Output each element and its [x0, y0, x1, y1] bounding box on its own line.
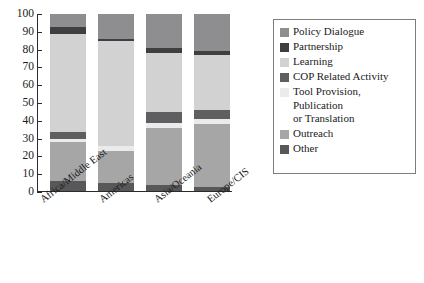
legend-item-label: Learning	[293, 55, 333, 69]
bar-segment[interactable]	[146, 112, 182, 123]
y-axis-tick-label: 90	[0, 26, 34, 38]
y-axis-tick-label: 30	[0, 133, 34, 145]
legend-item[interactable]: Policy Dialogue	[280, 25, 410, 39]
legend-item[interactable]: Other	[280, 142, 410, 156]
legend-item[interactable]: Tool Provision, Publication or Translati…	[280, 85, 410, 126]
bar-segment[interactable]	[146, 14, 182, 48]
bar-stack	[98, 14, 134, 192]
bar-segment[interactable]	[50, 132, 86, 139]
bar-column[interactable]	[98, 14, 134, 192]
legend-item-label: Outreach	[293, 127, 333, 141]
y-axis-tick-mark	[37, 67, 42, 68]
legend-item[interactable]: Learning	[280, 55, 410, 69]
y-axis-tick-mark	[37, 85, 42, 86]
legend-swatch-icon	[280, 88, 289, 97]
legend-swatch-icon	[280, 73, 289, 82]
legend-item-label: COP Related Activity	[293, 70, 389, 84]
legend-item[interactable]: Outreach	[280, 127, 410, 141]
legend-swatch-icon	[280, 58, 289, 67]
y-axis-tick-label: 0	[0, 186, 34, 198]
bar-column[interactable]	[146, 14, 182, 192]
legend-swatch-icon	[280, 130, 289, 139]
bar-segment[interactable]	[194, 110, 230, 119]
bar-segment[interactable]	[98, 14, 134, 39]
y-axis-tick-mark	[37, 50, 42, 51]
y-axis-tick-mark	[37, 139, 42, 140]
y-axis-tick-label: 40	[0, 115, 34, 127]
legend-item[interactable]: Partnership	[280, 40, 410, 54]
legend-swatch-icon	[280, 28, 289, 37]
legend-swatch-icon	[280, 145, 289, 154]
y-axis-tick-label: 100	[0, 8, 34, 20]
y-axis-tick-mark	[37, 156, 42, 157]
y-axis-tick-label: 10	[0, 168, 34, 180]
y-axis-tick-mark	[37, 14, 42, 15]
bar-segment[interactable]	[50, 34, 86, 132]
y-axis-tick-label: 60	[0, 79, 34, 91]
y-axis-tick-label: 70	[0, 62, 34, 74]
legend-item-label: Policy Dialogue	[293, 25, 364, 39]
chart-legend: Policy DialoguePartnershipLearningCOP Re…	[273, 19, 416, 174]
y-axis-tick-mark	[37, 121, 42, 122]
legend-swatch-icon	[280, 43, 289, 52]
legend-item-label: Partnership	[293, 40, 343, 54]
y-axis-tick-label: 80	[0, 44, 34, 56]
bar-segment[interactable]	[98, 41, 134, 146]
y-axis-tick-label: 50	[0, 97, 34, 109]
legend-item[interactable]: COP Related Activity	[280, 70, 410, 84]
stacked-bar-chart: 1009080706050403020100 Africa/Middle Eas…	[0, 0, 424, 283]
plot-area	[38, 14, 230, 192]
y-axis-tick-mark	[37, 192, 42, 193]
legend-item-label: Tool Provision, Publication or Translati…	[293, 85, 361, 126]
y-axis-tick-mark	[37, 174, 42, 175]
bar-segment[interactable]	[194, 55, 230, 110]
legend-item-label: Other	[293, 142, 318, 156]
bar-segment[interactable]	[146, 53, 182, 112]
y-axis-label-group: 1009080706050403020100	[0, 14, 34, 191]
bar-segment[interactable]	[194, 14, 230, 51]
bar-stack	[146, 14, 182, 192]
x-axis-line	[37, 191, 232, 192]
y-axis-tick-mark	[37, 103, 42, 104]
y-axis-tick-label: 20	[0, 151, 34, 163]
y-axis-tick-mark	[37, 32, 42, 33]
bar-segment[interactable]	[50, 14, 86, 26]
bar-segment[interactable]	[194, 124, 230, 186]
bar-segment[interactable]	[50, 27, 86, 34]
